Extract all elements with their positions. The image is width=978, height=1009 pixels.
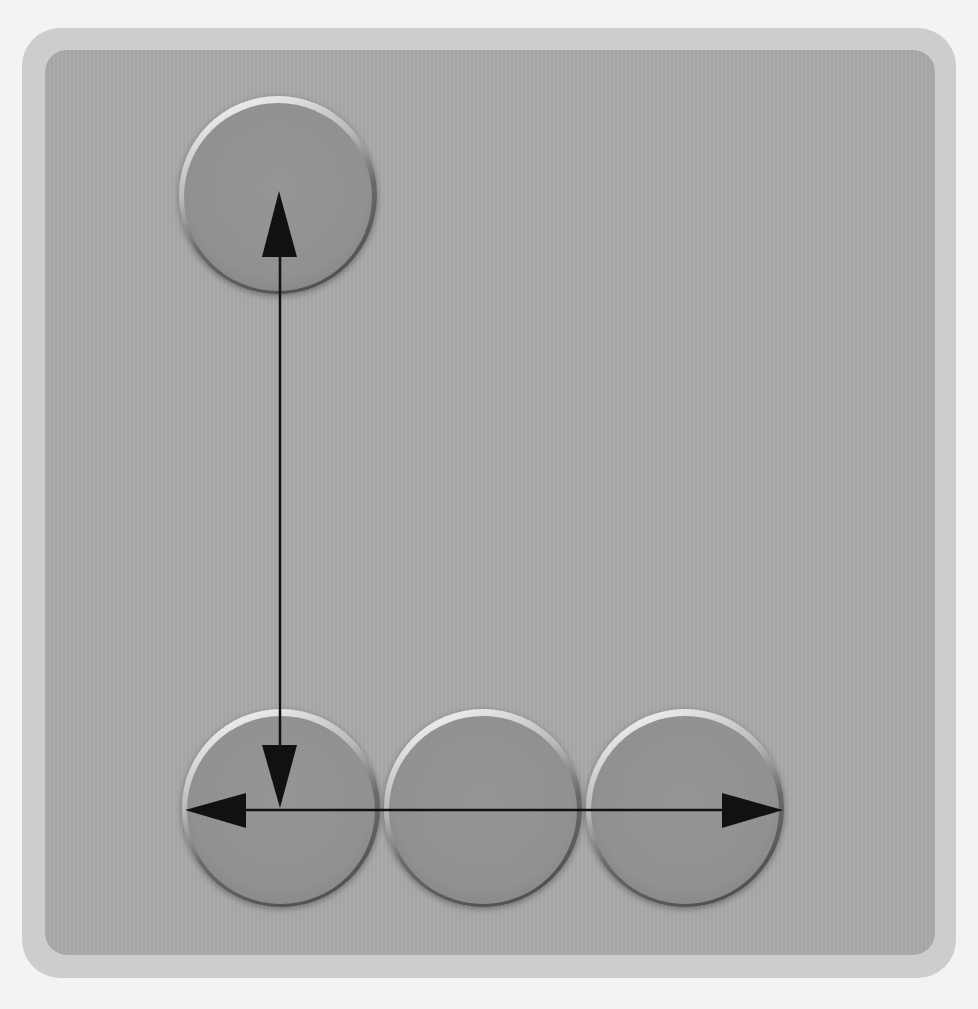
diagram-canvas bbox=[0, 0, 978, 1009]
circle-bottom-middle bbox=[384, 709, 582, 907]
